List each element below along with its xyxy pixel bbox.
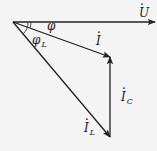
angle-phi-l-arc bbox=[23, 22, 28, 34]
phasor-i-label: I bbox=[96, 35, 101, 47]
phasor-il-label: IL bbox=[84, 122, 95, 137]
phasor-ic-label: IC bbox=[121, 91, 133, 106]
phasor-diagram-canvas bbox=[0, 0, 157, 151]
angle-phi-l-label: φL bbox=[32, 34, 47, 49]
angle-phi-label: φ bbox=[47, 20, 55, 32]
phasor-diagram: U φ φL I IC IL bbox=[0, 0, 157, 151]
angle-phi-arc bbox=[30, 22, 31, 28]
phasor-u-label: U bbox=[139, 7, 149, 19]
